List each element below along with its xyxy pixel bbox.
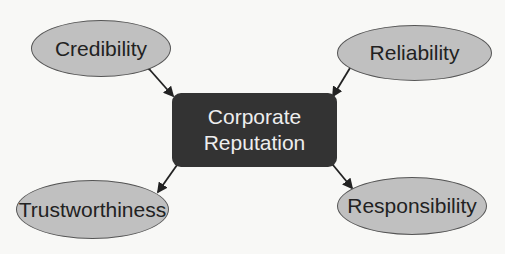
node-trustworthiness: Trustworthiness [16, 180, 169, 239]
node-reliability: Reliability [337, 25, 492, 81]
center-node-corporate-reputation: Corporate Reputation [172, 93, 337, 167]
node-label: Reliability [370, 41, 460, 65]
node-credibility: Credibility [31, 20, 171, 77]
center-label-line2: Reputation [204, 130, 306, 156]
node-label: Trustworthiness [19, 198, 166, 222]
center-label-line1: Corporate [208, 104, 301, 130]
node-responsibility: Responsibility [337, 177, 487, 235]
node-label: Responsibility [347, 194, 477, 218]
node-label: Credibility [55, 37, 147, 61]
